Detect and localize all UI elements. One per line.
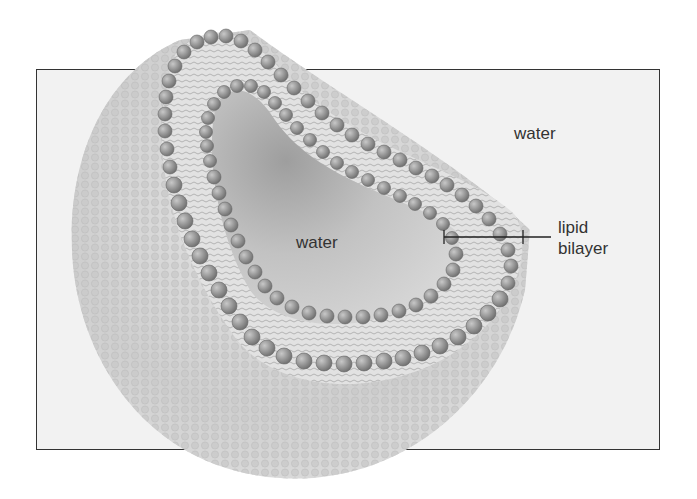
inner-water-label: water [296,233,338,253]
liposome-diagram: water water lipid bilayer [0,0,697,499]
outer-water-label: water [514,124,556,144]
lipid-bilayer-label-line1: lipid [558,218,588,238]
lipid-bilayer-label-line2: bilayer [558,239,608,259]
